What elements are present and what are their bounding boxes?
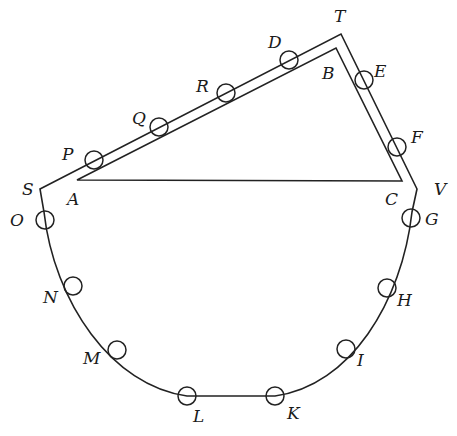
label-o: O (10, 210, 24, 230)
label-e: E (373, 61, 387, 81)
marker-circle-n (64, 277, 82, 295)
label-f: F (410, 127, 424, 147)
marker-circle-m (108, 341, 126, 359)
label-vertex-c: C (385, 189, 398, 209)
label-l: L (192, 406, 204, 426)
label-vertex-b: B (321, 63, 335, 83)
triangle-abc (77, 48, 402, 181)
triangle-outline (77, 48, 402, 181)
label-h: H (396, 290, 413, 310)
label-p: P (61, 144, 74, 164)
label-n: N (42, 287, 59, 307)
label-k: K (286, 403, 301, 423)
label-r: R (195, 76, 209, 96)
geometry-diagram: PQRDEFGHIKLMNOABCSTV (0, 0, 457, 436)
label-corner-s: S (22, 179, 34, 199)
label-corner-v: V (434, 179, 448, 199)
diagram-canvas: PQRDEFGHIKLMNOABCSTV (0, 0, 457, 436)
marker-circle-i (337, 340, 355, 358)
label-vertex-a: A (65, 189, 79, 209)
point-labels: PQRDEFGHIKLMNOABCSTV (10, 6, 448, 426)
label-m: M (82, 348, 101, 368)
label-d: D (267, 32, 282, 52)
label-i: I (356, 350, 364, 370)
label-g: G (425, 209, 439, 229)
marker-circle-p (85, 151, 103, 169)
label-q: Q (132, 108, 146, 128)
label-corner-t: T (334, 6, 347, 26)
